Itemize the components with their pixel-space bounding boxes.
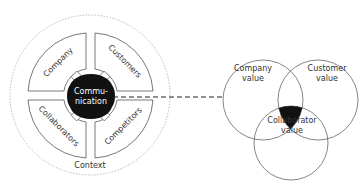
collaborator-value-label-1: Collaborator [267, 116, 317, 125]
customer-value-label-1: Customer [308, 64, 348, 73]
diagram-canvas: Commu- nication Company Customers Collab… [0, 0, 359, 181]
company-value-label-1: Company [234, 64, 272, 73]
collaborator-value-label-2: value [281, 126, 303, 135]
customer-value-label-2: value [316, 74, 338, 83]
company-value-label-2: value [242, 74, 264, 83]
ovp-label: OVP [284, 95, 296, 101]
communication-label-1: Commu- [74, 87, 108, 96]
communication-label-2: nication [75, 97, 107, 106]
context-label: Context [74, 161, 105, 170]
